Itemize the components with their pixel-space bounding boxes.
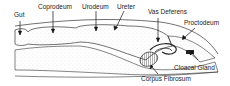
label-corpus-fibrosum: Corpus Fibrosum: [141, 76, 191, 83]
label-proctodeum: Proctodeum: [184, 20, 219, 27]
label-vas-deferens: Vas Deferens: [148, 9, 187, 16]
label-ureter: Ureter: [117, 4, 135, 11]
label-urodeum: Urodeum: [82, 4, 109, 11]
label-coprodeum: Coprodeum: [38, 4, 72, 11]
label-gut: Gut: [14, 12, 24, 19]
diagram-drawing: [0, 0, 230, 86]
label-cloacal-gland: Cloacal Gland: [174, 65, 215, 72]
cloaca-diagram: Gut Coprodeum Urodeum Ureter Vas Deferen…: [0, 0, 230, 86]
proctodeum-region: [168, 36, 215, 62]
